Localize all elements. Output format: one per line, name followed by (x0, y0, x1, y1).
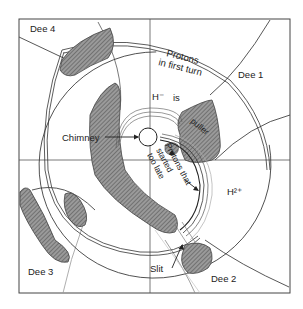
label-dee1: Dee 1 (238, 69, 263, 80)
cyclotron-center-diagram: Dee 4 Dee 1 Dee 3 Dee 2 Protons in first… (0, 0, 303, 309)
label-dee4: Dee 4 (30, 23, 55, 34)
chimney-arrowhead (134, 135, 139, 140)
label-slit: Slit (150, 263, 164, 274)
label-dee3: Dee 3 (28, 266, 53, 277)
dee3-boundary (32, 188, 95, 211)
dee3-outer-electrode (20, 188, 69, 262)
dee4-upper-electrode (60, 28, 114, 76)
dee2-electrode (182, 243, 212, 273)
dee1-lower-boundary (215, 115, 290, 160)
label-h2-plus: H²⁺ (227, 186, 242, 197)
chimney-circle (139, 128, 157, 146)
dee3-inner-electrode (64, 193, 86, 227)
dee1-boundary (210, 20, 270, 95)
label-dee2: Dee 2 (211, 273, 236, 284)
label-is: is (173, 92, 180, 103)
label-chimney: Chimney (62, 132, 100, 143)
slit-arrowhead (179, 244, 185, 250)
label-h-minus: H⁻ (152, 91, 164, 102)
